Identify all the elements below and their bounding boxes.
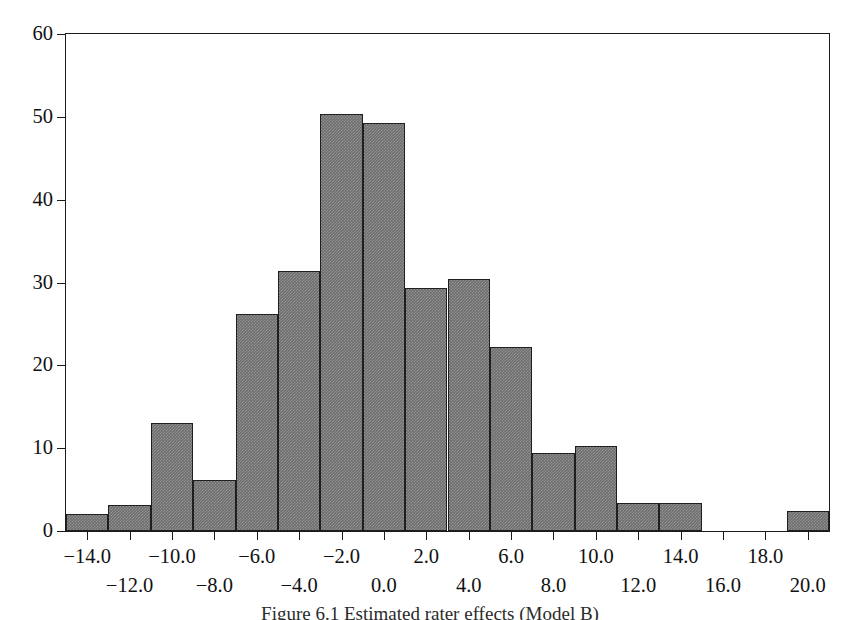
y-axis-tick (57, 283, 66, 284)
histogram-bar (66, 514, 108, 531)
y-axis-tick-label: 60 (33, 23, 54, 44)
y-axis-tick (57, 531, 66, 532)
histogram-bar (490, 347, 532, 531)
y-axis-tick-label: 40 (33, 189, 54, 210)
y-axis-tick (57, 117, 66, 118)
histogram-bar (617, 503, 659, 531)
x-axis-tick-label: 0.0 (371, 575, 397, 596)
histogram-bar (193, 480, 235, 531)
x-axis-tick (808, 531, 809, 540)
x-axis-tick-label: 6.0 (498, 546, 524, 567)
y-axis-tick (57, 200, 66, 201)
histogram-bar (151, 423, 193, 532)
x-axis-tick (469, 531, 470, 540)
x-axis-tick-label: 4.0 (456, 575, 482, 596)
x-axis-tick (723, 531, 724, 540)
x-axis-tick-label: 20.0 (790, 575, 826, 596)
x-axis-tick-label: −6.0 (238, 546, 275, 567)
x-axis-tick-label: 2.0 (413, 546, 439, 567)
y-axis-tick-label: 20 (33, 355, 54, 376)
x-axis-tick-label: −8.0 (196, 575, 233, 596)
x-axis-tick-label: 16.0 (705, 575, 741, 596)
x-axis-tick-label: −14.0 (63, 546, 110, 567)
histogram-bar (787, 511, 829, 531)
x-axis-tick-label: 8.0 (541, 575, 567, 596)
histogram-bar (363, 123, 405, 531)
x-axis-tick (130, 531, 131, 540)
x-axis-tick (342, 531, 343, 540)
y-axis-tick (57, 365, 66, 366)
figure-root: 0102030405060 −14.0−12.0−10.0−8.0−6.0−4.… (0, 0, 860, 620)
x-axis-tick-label: 14.0 (663, 546, 699, 567)
x-axis-tick (299, 531, 300, 540)
y-axis-tick (57, 448, 66, 449)
x-axis-tick-label: 18.0 (747, 546, 783, 567)
x-axis-tick (384, 531, 385, 540)
x-axis-tick (511, 531, 512, 540)
x-axis-tick-label: −12.0 (106, 575, 153, 596)
histogram-bar (278, 271, 320, 531)
x-axis-tick (214, 531, 215, 540)
x-axis-tick-label: −10.0 (148, 546, 195, 567)
histogram-bar (448, 279, 490, 531)
histogram-bar (108, 505, 150, 532)
histogram-bar (659, 503, 701, 531)
x-axis-tick (553, 531, 554, 540)
x-axis-tick-label: 12.0 (620, 575, 656, 596)
y-axis-tick-label: 0 (43, 520, 53, 541)
y-axis-tick-label: 30 (33, 272, 54, 293)
plot-area: 0102030405060 −14.0−12.0−10.0−8.0−6.0−4.… (65, 33, 830, 532)
x-axis-tick (681, 531, 682, 540)
histogram-bar (405, 288, 447, 531)
x-axis-tick-label: −2.0 (323, 546, 360, 567)
y-axis-tick-label: 50 (33, 106, 54, 127)
figure-caption: Figure 6.1 Estimated rater effects (Mode… (0, 603, 860, 620)
y-axis-tick (57, 34, 66, 35)
x-axis-tick (87, 531, 88, 540)
x-axis-tick (426, 531, 427, 540)
x-axis-tick (172, 531, 173, 540)
x-axis-tick-label: −4.0 (281, 575, 318, 596)
x-axis-tick (257, 531, 258, 540)
histogram-bar (236, 314, 278, 531)
histogram-bar (532, 453, 574, 531)
histogram-bars (66, 34, 829, 531)
y-axis-tick-label: 10 (33, 437, 54, 458)
x-axis-tick (596, 531, 597, 540)
histogram-bar (575, 446, 617, 531)
x-axis-tick-label: 10.0 (578, 546, 614, 567)
histogram-bar (320, 114, 362, 531)
x-axis-tick (765, 531, 766, 540)
x-axis-tick (638, 531, 639, 540)
